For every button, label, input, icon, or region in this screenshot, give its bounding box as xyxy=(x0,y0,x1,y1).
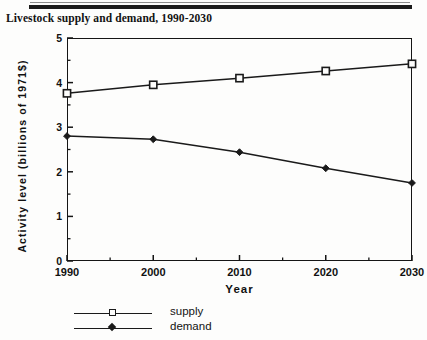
series-supply xyxy=(63,60,415,97)
legend-item-demand: demand xyxy=(74,321,314,336)
series-demand xyxy=(64,133,416,187)
legend-sample-supply xyxy=(74,306,152,321)
chart-area: Activity level (billions of 1971$) 5 4 3… xyxy=(0,0,427,340)
filled-diamond-marker-icon xyxy=(108,323,116,331)
legend-item-supply: supply xyxy=(74,306,314,321)
legend-label-supply: supply xyxy=(170,305,203,317)
legend-sample-demand xyxy=(74,321,152,336)
series-layer xyxy=(0,0,427,340)
legend-label-demand: demand xyxy=(170,320,212,332)
open-square-marker-icon xyxy=(109,309,116,316)
legend: supply demand xyxy=(74,306,314,336)
